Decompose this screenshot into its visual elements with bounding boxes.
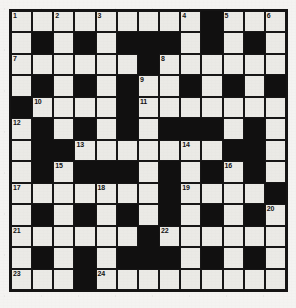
grid-cell-open[interactable] xyxy=(180,97,201,118)
grid-cell-open[interactable] xyxy=(244,11,265,32)
grid-cell-open[interactable] xyxy=(244,269,265,290)
grid-cell-open[interactable] xyxy=(11,75,32,96)
grid-cell-open[interactable]: 20 xyxy=(265,204,286,225)
grid-cell-open[interactable] xyxy=(223,183,244,204)
grid-cell-open[interactable] xyxy=(223,32,244,53)
grid-cell-open[interactable] xyxy=(117,11,138,32)
grid-cell-open[interactable] xyxy=(138,183,159,204)
grid-cell-open[interactable] xyxy=(32,11,53,32)
grid-cell-open[interactable] xyxy=(223,247,244,268)
grid-cell-open[interactable]: 5 xyxy=(223,11,244,32)
grid-cell-open[interactable] xyxy=(201,97,222,118)
grid-cell-open[interactable]: 24 xyxy=(96,269,117,290)
grid-cell-open[interactable] xyxy=(53,32,74,53)
grid-cell-open[interactable] xyxy=(180,161,201,182)
grid-cell-open[interactable] xyxy=(74,183,95,204)
grid-cell-open[interactable] xyxy=(138,140,159,161)
grid-cell-open[interactable] xyxy=(96,204,117,225)
grid-cell-open[interactable] xyxy=(96,118,117,139)
grid-cell-open[interactable] xyxy=(223,226,244,247)
grid-cell-open[interactable]: 7 xyxy=(11,54,32,75)
grid-cell-open[interactable]: 14 xyxy=(180,140,201,161)
grid-cell-open[interactable] xyxy=(32,269,53,290)
grid-cell-open[interactable]: 18 xyxy=(96,183,117,204)
grid-cell-open[interactable] xyxy=(53,269,74,290)
grid-cell-open[interactable] xyxy=(180,54,201,75)
grid-cell-open[interactable] xyxy=(11,204,32,225)
grid-cell-open[interactable] xyxy=(53,75,74,96)
grid-cell-open[interactable] xyxy=(117,183,138,204)
grid-cell-open[interactable] xyxy=(11,140,32,161)
grid-cell-open[interactable]: 3 xyxy=(96,11,117,32)
grid-cell-open[interactable] xyxy=(74,97,95,118)
grid-cell-open[interactable]: 6 xyxy=(265,11,286,32)
grid-cell-open[interactable] xyxy=(159,11,180,32)
grid-cell-open[interactable] xyxy=(96,97,117,118)
grid-cell-open[interactable] xyxy=(201,140,222,161)
grid-cell-open[interactable]: 9 xyxy=(138,75,159,96)
grid-cell-open[interactable] xyxy=(265,269,286,290)
grid-cell-open[interactable]: 4 xyxy=(180,11,201,32)
grid-cell-open[interactable] xyxy=(53,226,74,247)
grid-cell-open[interactable] xyxy=(159,75,180,96)
grid-cell-open[interactable] xyxy=(244,75,265,96)
grid-cell-open[interactable] xyxy=(265,54,286,75)
grid-cell-open[interactable] xyxy=(11,161,32,182)
grid-cell-open[interactable] xyxy=(53,183,74,204)
grid-cell-open[interactable] xyxy=(32,226,53,247)
grid-cell-open[interactable] xyxy=(96,75,117,96)
grid-cell-open[interactable]: 15 xyxy=(53,161,74,182)
grid-cell-open[interactable] xyxy=(53,54,74,75)
grid-cell-open[interactable] xyxy=(96,54,117,75)
grid-cell-open[interactable] xyxy=(244,97,265,118)
grid-cell-open[interactable]: 17 xyxy=(11,183,32,204)
grid-cell-open[interactable] xyxy=(32,54,53,75)
grid-cell-open[interactable] xyxy=(180,32,201,53)
grid-cell-open[interactable] xyxy=(138,204,159,225)
grid-cell-open[interactable] xyxy=(53,247,74,268)
grid-cell-open[interactable] xyxy=(74,226,95,247)
grid-cell-open[interactable] xyxy=(11,32,32,53)
grid-cell-open[interactable] xyxy=(96,247,117,268)
grid-cell-open[interactable] xyxy=(223,118,244,139)
grid-cell-open[interactable] xyxy=(201,183,222,204)
grid-cell-open[interactable] xyxy=(180,247,201,268)
grid-cell-open[interactable] xyxy=(201,54,222,75)
grid-cell-open[interactable] xyxy=(138,269,159,290)
grid-cell-open[interactable] xyxy=(265,161,286,182)
grid-cell-open[interactable] xyxy=(74,11,95,32)
grid-cell-open[interactable] xyxy=(11,247,32,268)
grid-cell-open[interactable]: 11 xyxy=(138,97,159,118)
grid-cell-open[interactable] xyxy=(117,269,138,290)
grid-cell-open[interactable]: 21 xyxy=(11,226,32,247)
grid-cell-open[interactable]: 1 xyxy=(11,11,32,32)
grid-cell-open[interactable] xyxy=(265,32,286,53)
grid-cell-open[interactable] xyxy=(180,269,201,290)
grid-cell-open[interactable] xyxy=(138,118,159,139)
grid-cell-open[interactable] xyxy=(244,183,265,204)
grid-cell-open[interactable] xyxy=(180,226,201,247)
grid-cell-open[interactable] xyxy=(96,32,117,53)
grid-cell-open[interactable] xyxy=(201,75,222,96)
grid-cell-open[interactable] xyxy=(117,54,138,75)
grid-cell-open[interactable] xyxy=(223,269,244,290)
grid-cell-open[interactable]: 13 xyxy=(74,140,95,161)
grid-cell-open[interactable] xyxy=(74,54,95,75)
grid-cell-open[interactable] xyxy=(244,226,265,247)
grid-cell-open[interactable] xyxy=(53,97,74,118)
crossword-grid[interactable]: 123456789101112131415161718192021222324 xyxy=(9,9,288,292)
grid-cell-open[interactable] xyxy=(96,140,117,161)
grid-cell-open[interactable]: 10 xyxy=(32,97,53,118)
grid-cell-open[interactable] xyxy=(265,97,286,118)
grid-cell-open[interactable] xyxy=(159,140,180,161)
grid-cell-open[interactable] xyxy=(159,97,180,118)
grid-cell-open[interactable] xyxy=(201,226,222,247)
grid-cell-open[interactable] xyxy=(159,269,180,290)
grid-cell-open[interactable] xyxy=(96,226,117,247)
grid-cell-open[interactable] xyxy=(265,247,286,268)
grid-cell-open[interactable] xyxy=(138,161,159,182)
grid-cell-open[interactable] xyxy=(32,183,53,204)
grid-cell-open[interactable] xyxy=(53,204,74,225)
grid-cell-open[interactable] xyxy=(223,97,244,118)
grid-cell-open[interactable] xyxy=(244,54,265,75)
